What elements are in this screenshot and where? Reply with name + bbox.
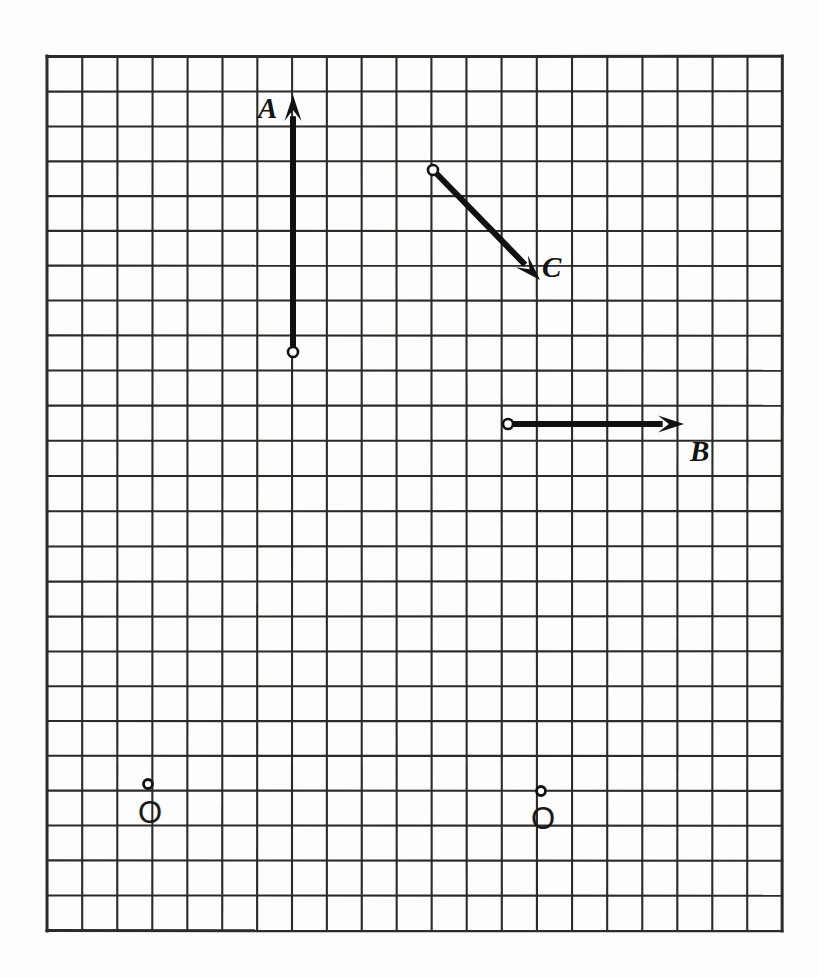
vector-tail-dot bbox=[503, 419, 513, 429]
vector-b bbox=[503, 416, 684, 433]
vector-overlay bbox=[0, 0, 819, 978]
vector-tail-dot bbox=[288, 347, 298, 357]
origin-dot bbox=[537, 787, 546, 796]
origin-right bbox=[537, 787, 546, 796]
vector-c bbox=[428, 165, 540, 280]
vector-a bbox=[285, 95, 302, 357]
origin-left bbox=[144, 780, 153, 789]
origin-label-right: O bbox=[531, 803, 555, 834]
vector-shaft bbox=[433, 170, 525, 265]
origin-dot bbox=[144, 780, 153, 789]
origin-label-left: O bbox=[138, 797, 162, 828]
vector-tail-dot bbox=[428, 165, 438, 175]
figure-canvas: A B C O O bbox=[0, 0, 819, 978]
vector-label-c: C bbox=[542, 253, 561, 282]
vector-label-b: B bbox=[690, 437, 709, 466]
vector-label-a: A bbox=[258, 94, 277, 123]
